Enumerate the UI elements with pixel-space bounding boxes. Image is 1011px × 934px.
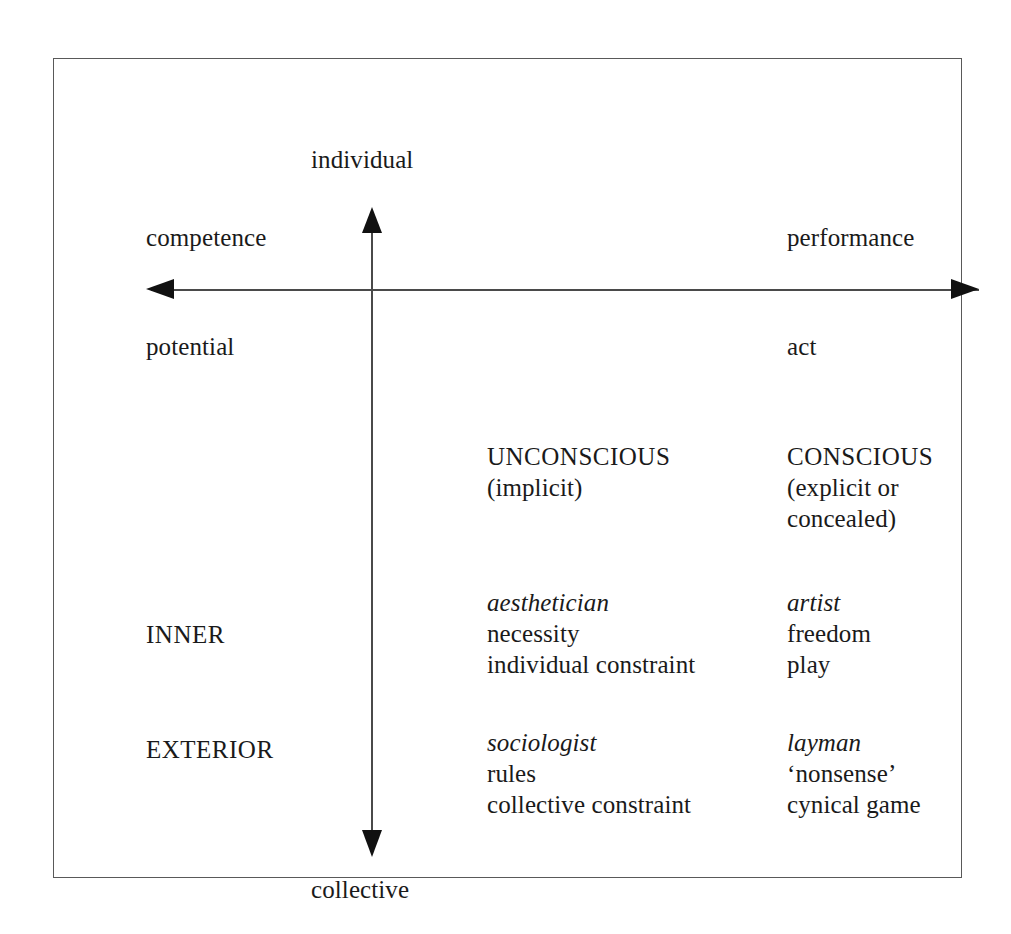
- row-label-exterior: EXTERIOR: [146, 737, 274, 762]
- column-header-line: concealed): [787, 503, 933, 534]
- column-header-unconscious: UNCONSCIOUS (implicit): [487, 441, 670, 503]
- cell-exterior-unconscious: sociologist rules collective constraint: [487, 727, 691, 820]
- cell-line: play: [787, 649, 871, 680]
- column-header-line: CONSCIOUS: [787, 441, 933, 472]
- cell-line-role: layman: [787, 727, 921, 758]
- cell-line: rules: [487, 758, 691, 789]
- diagram-frame: individual collective competence potenti…: [53, 58, 962, 878]
- horizontal-axis-line: [151, 289, 979, 291]
- axis-label-potential: potential: [146, 334, 234, 359]
- cell-line: individual constraint: [487, 649, 695, 680]
- cell-inner-conscious: artist freedom play: [787, 587, 871, 680]
- cell-line-role: artist: [787, 587, 871, 618]
- cell-exterior-conscious: layman ‘nonsense’ cynical game: [787, 727, 921, 820]
- axis-label-performance: performance: [787, 225, 914, 250]
- column-header-line: (implicit): [487, 472, 670, 503]
- cell-line-role: sociologist: [487, 727, 691, 758]
- cell-line: cynical game: [787, 789, 921, 820]
- column-header-line: (explicit or: [787, 472, 933, 503]
- axis-label-competence: competence: [146, 225, 266, 250]
- cell-inner-unconscious: aesthetician necessity individual constr…: [487, 587, 695, 680]
- arrow-left-icon: [146, 279, 174, 299]
- column-header-conscious: CONSCIOUS (explicit or concealed): [787, 441, 933, 534]
- row-label-inner: INNER: [146, 622, 225, 647]
- cell-line: ‘nonsense’: [787, 758, 921, 789]
- axis-label-act: act: [787, 334, 816, 359]
- cell-line-role: aesthetician: [487, 587, 695, 618]
- cell-line: necessity: [487, 618, 695, 649]
- axis-label-individual: individual: [311, 147, 413, 172]
- arrow-up-icon: [362, 207, 382, 233]
- cell-line: collective constraint: [487, 789, 691, 820]
- column-header-line: UNCONSCIOUS: [487, 441, 670, 472]
- axis-label-collective: collective: [311, 877, 409, 902]
- arrow-right-icon: [951, 279, 979, 299]
- cell-line: freedom: [787, 618, 871, 649]
- arrow-down-icon: [362, 830, 382, 857]
- vertical-axis-line: [371, 214, 373, 851]
